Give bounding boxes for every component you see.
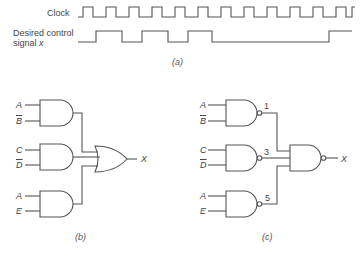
nand-gate-5 xyxy=(226,191,257,217)
caption-b: (b) xyxy=(75,232,86,242)
nand-gate-output xyxy=(290,145,321,171)
node-3-label: 3 xyxy=(264,147,269,157)
signal-var: x xyxy=(39,38,44,48)
b-input-c: C xyxy=(16,145,23,155)
c-input-b-bar: B xyxy=(200,116,206,126)
b-input-a2: A xyxy=(16,191,22,201)
and-gate-2 xyxy=(40,144,73,170)
or-gate xyxy=(95,146,127,172)
signal-label-word: signal xyxy=(13,38,37,48)
caption-c: (c) xyxy=(262,232,273,242)
nand-gate-3 xyxy=(226,145,257,171)
c-input-a1: A xyxy=(200,100,206,110)
caption-a: (a) xyxy=(172,57,183,67)
node-5-label: 5 xyxy=(265,193,270,203)
b-input-b-bar: B xyxy=(16,116,22,126)
and-gate-3 xyxy=(40,191,73,217)
c-output-x: X xyxy=(341,154,347,164)
c-input-a2: A xyxy=(200,191,206,201)
and-gate-1 xyxy=(40,100,73,126)
c-input-e: E xyxy=(200,206,206,216)
control-signal-waveform xyxy=(78,31,352,42)
c-input-c: C xyxy=(200,145,207,155)
diagram-canvas xyxy=(0,0,361,257)
b-input-a1: A xyxy=(16,100,22,110)
c-input-d-bar: D xyxy=(200,160,207,170)
b-output-x: X xyxy=(141,154,147,164)
clock-label: Clock xyxy=(47,8,70,18)
b-input-d-bar: D xyxy=(16,160,23,170)
clock-waveform xyxy=(78,7,355,17)
b-input-e: E xyxy=(16,206,22,216)
signal-label-line1: Desired control xyxy=(13,28,74,38)
nand-gate-1 xyxy=(226,100,257,126)
signal-label-line2: signal x xyxy=(13,38,44,48)
node-1-label: 1 xyxy=(264,101,269,111)
